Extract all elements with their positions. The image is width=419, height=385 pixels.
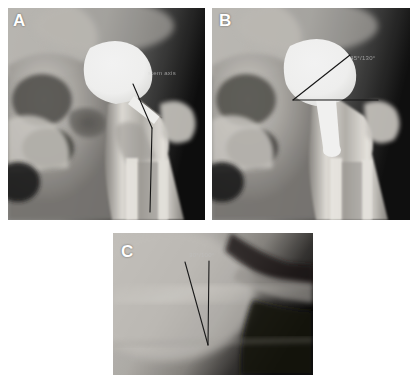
panel-c[interactable]: 30°/100° C [113, 233, 313, 375]
panel-b[interactable]: 45°/130° B [212, 8, 410, 220]
panel-c-letter: C [121, 243, 134, 260]
panel-a[interactable]: stem axis A [8, 8, 205, 220]
panel-c-annotation-label: 30°/100° [189, 252, 215, 258]
panel-b-letter: B [219, 12, 232, 29]
panel-b-annotation-label: 45°/130° [350, 55, 376, 61]
panel-b-xray-image [212, 8, 410, 220]
radiograph-figure: stem axis A [0, 0, 419, 385]
panel-a-xray-image [8, 8, 205, 220]
panel-a-letter: A [13, 12, 26, 29]
panel-a-annotation-label: stem axis [148, 70, 176, 76]
